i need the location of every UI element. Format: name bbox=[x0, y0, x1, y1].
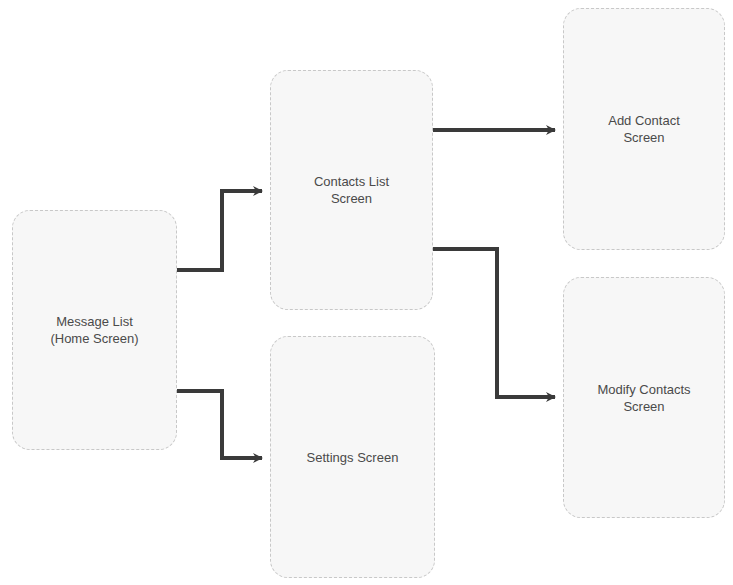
node-add-contact: Add Contact Screen bbox=[563, 8, 725, 250]
node-settings: Settings Screen bbox=[270, 336, 435, 578]
node-contacts-list: Contacts List Screen bbox=[270, 70, 433, 310]
edge-contacts-to-modify-contacts bbox=[433, 249, 555, 397]
node-label: Message List (Home Screen) bbox=[50, 313, 138, 347]
edge-message-to-contacts bbox=[177, 191, 262, 270]
node-label: Contacts List Screen bbox=[314, 173, 389, 207]
node-message-list: Message List (Home Screen) bbox=[12, 210, 177, 450]
node-label: Settings Screen bbox=[307, 449, 399, 466]
node-label: Add Contact Screen bbox=[608, 112, 680, 146]
edge-message-to-settings bbox=[177, 391, 262, 458]
node-modify-contacts: Modify Contacts Screen bbox=[563, 277, 725, 518]
node-label: Modify Contacts Screen bbox=[597, 381, 690, 415]
